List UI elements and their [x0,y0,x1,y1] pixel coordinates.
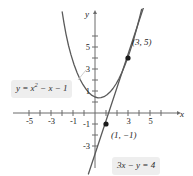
x-tick-label-3: 3 [123,117,134,126]
parabola-eq-suffix: − x − 1 [38,83,68,93]
y-tick-label--1: -1 [77,120,90,129]
x-tick-label-5: 5 [145,117,156,126]
x-tick-label--5: -5 [24,117,35,126]
parabola-eq-prefix: y = x [16,83,35,93]
y-tick-label-5: 5 [80,43,90,52]
y-tick-label--3: -3 [77,142,90,151]
y-tick-label-3: 3 [80,65,90,74]
point-label-3-5: (3, 5) [132,38,152,47]
parabola-curve [62,9,141,98]
x-axis-label: x [180,110,184,119]
line-curve [88,6,144,174]
y-tick-label-1: 1 [80,87,90,96]
y-axis-label: y [85,10,89,19]
point-marker-3-5 [125,55,130,60]
parabola-equation-callout: y = x2 − x − 1 [11,80,72,98]
graph-figure: -5 -3 -1 3 5 5 3 1 -1 -3 y x (3, 5) (1, … [0,0,193,176]
point-label-1-neg1: (1, −1) [111,131,137,140]
line-equation-callout: 3x − y = 4 [112,157,160,175]
x-tick-label--3: -3 [46,117,57,126]
point-marker-1-neg1 [103,121,108,126]
